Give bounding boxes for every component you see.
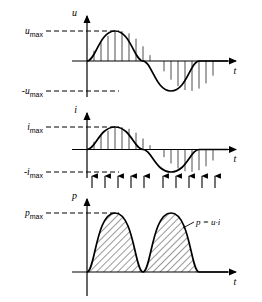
- axis-label-u: u: [72, 7, 77, 18]
- projection-arrows: [92, 176, 215, 188]
- waveform-figure: u t umax -umax: [0, 0, 262, 302]
- axis-label-i: i: [74, 104, 77, 115]
- ordinate-hatch-positive-current: [94, 127, 150, 149]
- equation-leader-line: [183, 222, 194, 228]
- tick-label-neg-umax: -umax: [22, 86, 44, 98]
- axis-label-p: p: [71, 190, 77, 201]
- axis-label-t-power: t: [234, 276, 237, 287]
- plot-current: i t imax -imax: [24, 104, 237, 179]
- axis-label-t-current: t: [234, 153, 237, 164]
- plot-power: p t pmax p = u·i: [24, 190, 237, 296]
- ordinate-hatch-positive: [94, 31, 150, 61]
- plot-voltage: u t umax -umax: [22, 7, 237, 98]
- axis-label-t-voltage: t: [234, 65, 237, 76]
- equation-label-power: p = u·i: [195, 217, 221, 227]
- tick-label-pmax: pmax: [24, 208, 43, 220]
- tick-label-imax: imax: [27, 122, 43, 134]
- tick-label-umax: umax: [25, 26, 43, 38]
- tick-label-neg-imax: -imax: [24, 167, 44, 179]
